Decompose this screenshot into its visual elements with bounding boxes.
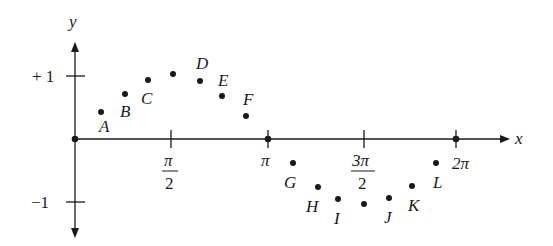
x-tick-2pi: 2π [452,154,470,173]
point-j [386,195,392,201]
label-k: K [407,196,421,215]
label-a: A [98,117,110,136]
x-tick-3pi-half-den: 2 [358,174,367,193]
label-i: I [333,209,341,228]
point-d [197,78,203,84]
point-h [315,184,321,190]
point-k [409,183,415,189]
x-axis-label: x [514,129,523,148]
y-tick-label-plus1: + 1 [32,67,54,86]
point-f [243,113,249,119]
x-tick-pi: π [261,151,270,170]
point-l [433,160,439,166]
point-trough [361,201,367,207]
x-tick-pi-half-den: 2 [165,174,174,193]
label-b: B [120,102,131,121]
y-axis-label: y [67,12,77,31]
x-tick-3pi-half-num: 3π [351,151,370,170]
x-tick-pi-half-num: π [164,151,173,170]
point-peak [170,71,176,77]
point-c [145,77,151,83]
point-i [335,196,341,202]
label-d: D [195,54,209,73]
point-g [290,160,296,166]
label-e: E [217,71,229,90]
label-h: H [305,197,320,216]
point-b [122,91,128,97]
label-f: F [242,90,254,109]
origin-point [72,136,79,143]
sine-scatter-chart: y x + 1 −1 π 2 π 3π 2 2π A B C D E F G H… [0,0,553,246]
point-2pi [453,136,460,143]
point-e [219,93,225,99]
point-pi [265,136,272,143]
label-c: C [141,89,153,108]
y-tick-label-minus1: −1 [31,193,49,212]
point-a [98,109,104,115]
label-g: G [284,173,296,192]
label-j: J [384,208,393,227]
label-l: L [432,173,442,192]
